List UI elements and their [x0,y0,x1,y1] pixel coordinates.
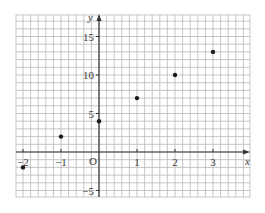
x-tick-label: 1 [134,156,140,168]
x-axis-label: x [244,155,250,167]
data-point [173,73,177,77]
y-tick-label: 15 [83,31,95,43]
x-tick-label: 3 [210,156,216,168]
chart-canvas: −2−112315105−5 x y O [0,0,265,213]
y-tick-label: 10 [83,69,95,81]
data-point [21,165,25,169]
y-axis-label: y [87,11,93,23]
grid-lines [16,15,250,197]
data-point [59,134,63,138]
x-tick-label: −1 [55,156,67,168]
origin-label: O [89,155,97,167]
scatter-chart: −2−112315105−5 x y O [0,0,265,213]
data-point [97,119,101,123]
y-tick-label: 5 [89,108,95,120]
x-tick-label: 2 [172,156,178,168]
x-axis-arrow-icon [243,150,250,155]
data-point [135,96,139,100]
data-point [211,50,215,54]
y-tick-label: −5 [82,185,94,197]
